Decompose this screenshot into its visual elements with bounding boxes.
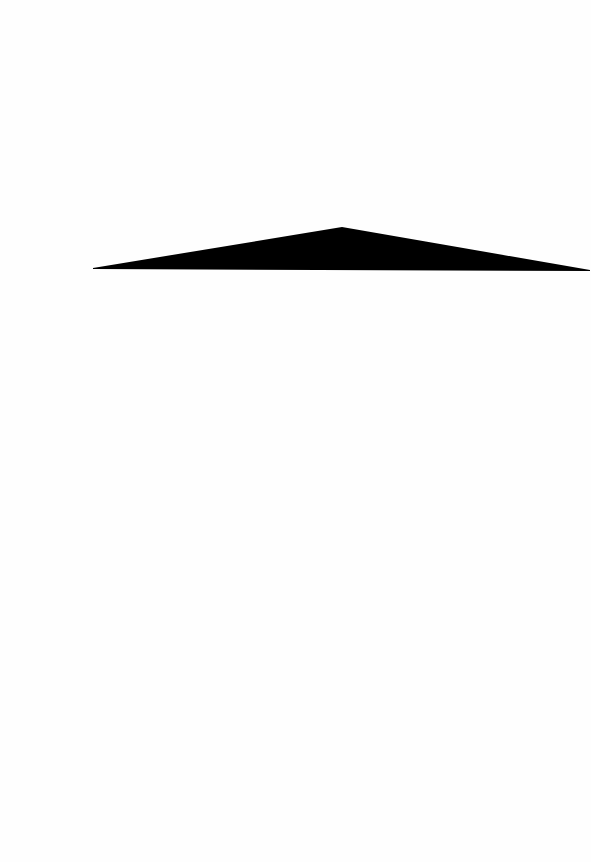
blank-page	[0, 0, 591, 862]
shape-canvas	[0, 0, 591, 862]
black-triangle-shape	[93, 227, 590, 271]
